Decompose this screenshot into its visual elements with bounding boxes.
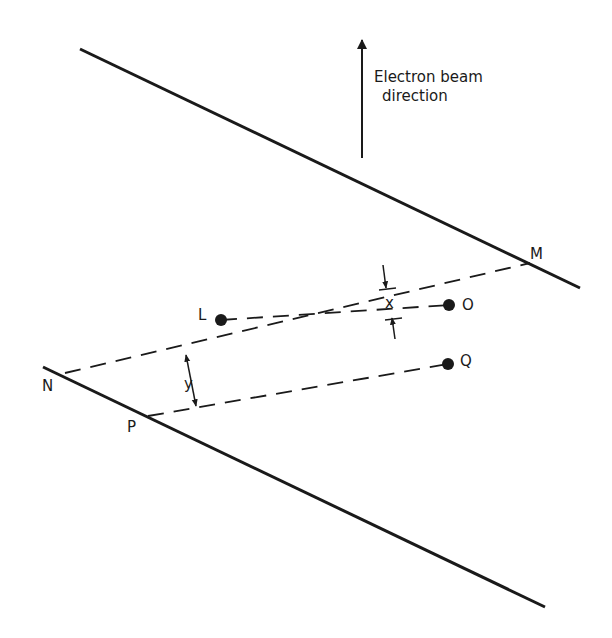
caption-line-2: direction (382, 87, 448, 105)
label-p: P (127, 418, 136, 436)
label-m: M (530, 245, 543, 263)
label-l: L (198, 306, 207, 324)
dashed-line-l-o (221, 305, 449, 320)
label-o: O (462, 296, 474, 314)
lower-boundary-line (43, 367, 545, 607)
diagram-canvas: Electron beam direction L O Q M N P x y (0, 0, 612, 638)
label-q: Q (460, 352, 472, 370)
label-y: y (184, 375, 193, 393)
label-n: N (42, 377, 53, 395)
point-o-dot (443, 299, 455, 311)
point-q-dot (442, 358, 454, 370)
point-l-dot (215, 314, 227, 326)
caption-line-1: Electron beam (374, 68, 483, 86)
label-x: x (385, 294, 394, 312)
upper-boundary-line (80, 49, 580, 288)
